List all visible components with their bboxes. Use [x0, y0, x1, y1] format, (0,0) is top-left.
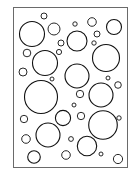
bubble-pattern-figure [0, 0, 135, 176]
circle-group [19, 13, 123, 164]
circle-17 [50, 77, 54, 81]
circle-23 [72, 103, 76, 107]
circle-6 [107, 20, 122, 35]
circle-24 [55, 110, 70, 125]
circle-36 [113, 154, 122, 163]
circle-19 [115, 82, 122, 89]
circle-28 [117, 116, 121, 120]
circle-34 [62, 151, 71, 160]
circle-11 [93, 45, 120, 72]
circle-20 [25, 81, 58, 114]
circle-1 [41, 13, 47, 19]
circle-12 [23, 49, 31, 57]
circle-10 [92, 41, 96, 45]
circle-30 [22, 135, 31, 144]
circle-18 [106, 76, 110, 80]
circle-14 [33, 51, 58, 76]
circle-32 [77, 136, 96, 155]
circle-8 [94, 31, 100, 37]
circle-16 [65, 64, 89, 88]
circle-2 [20, 22, 45, 47]
circle-9 [58, 40, 64, 46]
circle-31 [69, 137, 74, 142]
circle-29 [36, 123, 60, 147]
circle-3 [48, 23, 60, 35]
circle-21 [76, 90, 83, 97]
circle-7 [67, 31, 87, 51]
circle-22 [89, 83, 113, 107]
circle-25 [77, 112, 84, 119]
circle-4 [73, 22, 77, 26]
circle-26 [20, 115, 27, 122]
circle-13 [56, 49, 61, 54]
circle-33 [28, 151, 41, 164]
circle-27 [89, 111, 118, 140]
circle-15 [19, 68, 27, 76]
circle-5 [88, 18, 97, 27]
circle-35 [99, 152, 103, 156]
